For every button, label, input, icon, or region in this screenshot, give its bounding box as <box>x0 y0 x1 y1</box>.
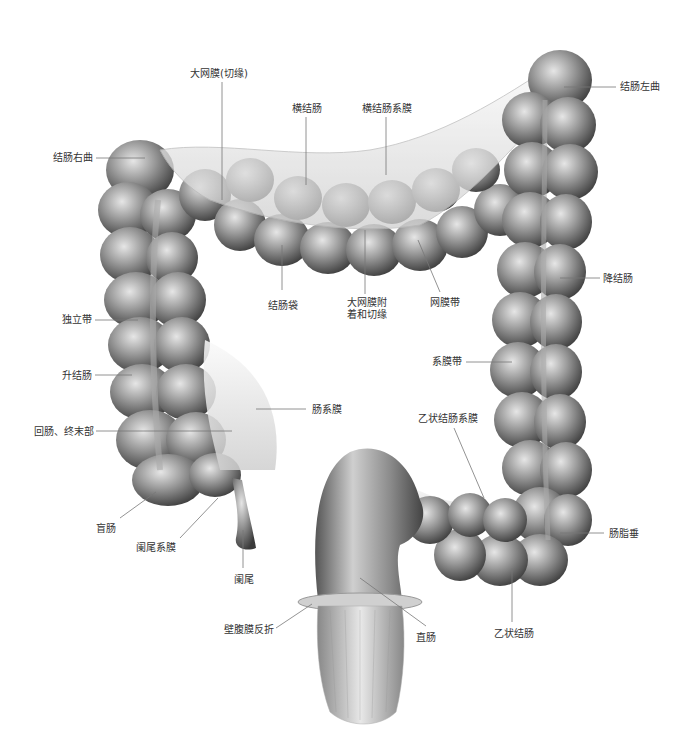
label-epiploic-appendices: 肠脂垂 <box>609 528 639 540</box>
label-transverse-colon: 横结肠 <box>292 103 322 115</box>
rectum-shape <box>298 449 423 724</box>
label-mesentery: 肠系膜 <box>312 404 342 416</box>
label-mesocolic-band: 系膜带 <box>432 356 462 368</box>
leader-line-appendix-mesentery <box>180 498 218 538</box>
label-omentum-attachment: 大网膜附 着和切缘 <box>347 297 387 321</box>
label-transverse-mesocolon: 横结肠系膜 <box>362 103 412 115</box>
label-left-colic-flexure: 结肠左曲 <box>620 81 660 93</box>
appendix-shape <box>232 478 256 550</box>
leader-line-cecum <box>120 492 156 518</box>
leader-line-peritoneal-reflection <box>276 604 312 628</box>
label-ascending-colon: 升结肠 <box>62 370 92 382</box>
label-sigmoid-mesocolon: 乙状结肠系膜 <box>418 413 478 425</box>
label-right-colic-flexure: 结肠右曲 <box>53 152 93 164</box>
label-cecum: 盲肠 <box>96 523 116 535</box>
leader-line-sigmoid-mesocolon <box>454 428 484 498</box>
label-sigmoid-colon: 乙状结肠 <box>494 628 534 640</box>
label-omentum-attachment-line1: 大网膜附 <box>347 297 387 309</box>
sigmoid-colon-shape <box>400 480 528 586</box>
label-omentum-attachment-line2: 着和切缘 <box>347 309 387 321</box>
label-rectum: 直肠 <box>416 632 436 644</box>
label-free-band: 独立带 <box>62 314 92 326</box>
label-greater-omentum-cut: 大网膜(切缘) <box>190 68 248 80</box>
label-haustra: 结肠袋 <box>268 300 298 312</box>
label-appendix: 阑尾 <box>234 574 254 586</box>
label-peritoneal-reflection: 壁腹膜反折 <box>224 624 274 636</box>
label-ileum-terminal: 回肠、终末部 <box>34 426 94 438</box>
colon-illustration <box>0 0 696 743</box>
large-intestine-figure <box>0 0 696 743</box>
label-omental-band: 网膜带 <box>430 297 460 309</box>
label-descending-colon: 降结肠 <box>603 273 633 285</box>
label-appendix-mesentery: 阑尾系膜 <box>136 542 176 554</box>
